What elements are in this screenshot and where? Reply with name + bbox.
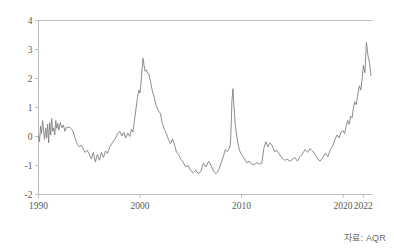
x-tick-label: 2000 <box>131 201 150 211</box>
series-line <box>39 42 371 173</box>
y-tick-label: 3 <box>28 45 33 55</box>
y-tick-label: -1 <box>25 161 33 171</box>
source-note: 자료: AQR <box>344 231 386 244</box>
y-axis-ticks: -2-101234 <box>25 16 39 200</box>
x-axis-ticks: 19902000201020202022 <box>29 195 373 211</box>
axis-lines <box>39 21 373 195</box>
y-tick-label: -2 <box>25 190 33 200</box>
line-chart: -2-101234 19902000201020202022 <box>0 0 394 252</box>
x-tick-label: 1990 <box>29 201 48 211</box>
chart-container: -2-101234 19902000201020202022 자료: AQR <box>0 0 394 252</box>
y-tick-label: 2 <box>28 74 33 84</box>
data-series-group <box>39 42 371 173</box>
x-tick-label: 2020 <box>334 201 353 211</box>
x-tick-label: 2022 <box>354 201 373 211</box>
y-tick-label: 4 <box>28 16 33 26</box>
x-tick-label: 2010 <box>232 201 251 211</box>
y-tick-label: 1 <box>28 103 33 113</box>
y-tick-label: 0 <box>28 132 33 142</box>
